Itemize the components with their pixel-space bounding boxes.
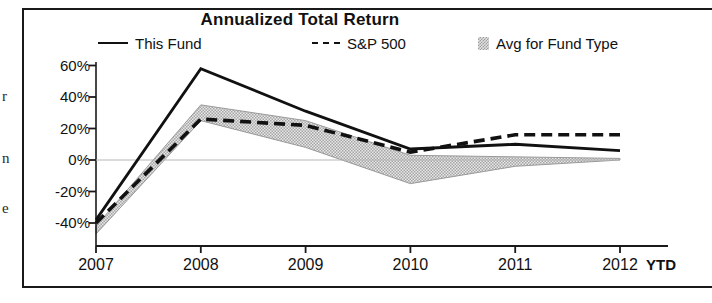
x-axis-tick-label: 2011 <box>480 256 550 274</box>
x-axis-tick-label: 2012 <box>585 256 655 274</box>
x-axis-ytd-label: YTD <box>646 256 676 273</box>
x-axis-tick-label: 2007 <box>61 256 131 274</box>
x-axis-tick-label: 2010 <box>375 256 445 274</box>
x-axis-tick-label: 2009 <box>271 256 341 274</box>
x-axis-tick-label: 2008 <box>166 256 236 274</box>
